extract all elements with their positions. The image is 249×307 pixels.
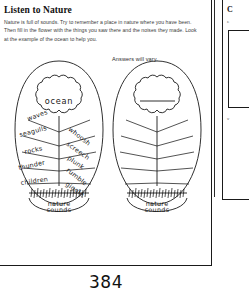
example-thing-label-2: seagulls bbox=[18, 124, 48, 139]
branch-vein-left-3 bbox=[120, 152, 157, 159]
example-root-label-line2: sounds bbox=[47, 206, 72, 214]
branch-vein-right-3 bbox=[157, 152, 194, 159]
next-page-title: C bbox=[227, 5, 233, 14]
flower-head-cloud bbox=[36, 75, 83, 113]
page-title: Listen to Nature bbox=[4, 2, 205, 15]
example-thing-label-1: waves bbox=[26, 108, 49, 123]
worksheet-content: Listen to Nature Nature is full of sound… bbox=[4, 2, 205, 263]
branch-vein-right-5 bbox=[157, 183, 189, 184]
page-number: 384 bbox=[0, 272, 212, 292]
soil-hatching bbox=[127, 188, 187, 198]
blank-flower-diagram[interactable]: nature sounds bbox=[109, 58, 205, 216]
worksheet-page: Listen to Nature Nature is full of sound… bbox=[0, 0, 212, 266]
blank-root-label-line2: sounds bbox=[145, 206, 170, 214]
example-head-label: ocean bbox=[45, 96, 73, 106]
next-page-subtitle: c bbox=[227, 19, 229, 24]
example-flower-diagram: ocean bbox=[11, 58, 107, 216]
screenshot-root: Listen to Nature Nature is full of sound… bbox=[0, 0, 249, 307]
branch-vein-left-2 bbox=[121, 136, 157, 146]
branch-vein-right-2 bbox=[157, 136, 193, 146]
next-page-footnote: v bbox=[227, 116, 229, 121]
branch-vein-left-4 bbox=[121, 168, 157, 171]
next-page-box bbox=[228, 30, 249, 108]
branch-vein-right-1 bbox=[157, 120, 188, 132]
instructions-text: Nature is full of sounds. Try to remembe… bbox=[4, 18, 200, 43]
branch-vein-left-1 bbox=[126, 120, 157, 132]
next-page-sliver: C c v bbox=[222, 0, 249, 200]
flower-head-cloud bbox=[134, 75, 181, 113]
diagram-area: ocean bbox=[4, 58, 210, 218]
branch-vein-left-5 bbox=[125, 183, 157, 184]
branch-vein-right-4 bbox=[59, 168, 95, 171]
page-gutter-divider bbox=[214, 0, 215, 197]
branch-vein-right-4 bbox=[157, 168, 193, 171]
